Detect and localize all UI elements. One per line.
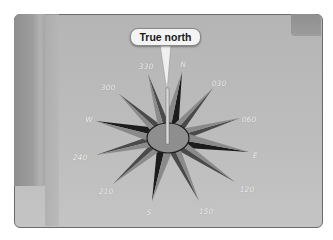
bearing-label-330: 330 xyxy=(139,62,153,71)
bearing-label-s: S xyxy=(147,208,152,217)
true-north-callout: True north xyxy=(130,28,201,46)
bearing-label-w: W xyxy=(85,115,92,124)
bearing-label-n: N xyxy=(180,60,186,69)
bearing-label-030: 030 xyxy=(212,79,226,88)
bearing-label-300: 300 xyxy=(101,83,115,92)
callout-pointer xyxy=(160,44,171,92)
bearing-label-e: E xyxy=(253,151,258,160)
bearing-label-240: 240 xyxy=(73,153,87,162)
bearing-label-120: 120 xyxy=(240,185,254,194)
bearing-label-150: 150 xyxy=(199,207,213,216)
bearing-label-210: 210 xyxy=(99,187,113,196)
true-north-needle xyxy=(166,88,169,144)
bearing-label-060: 060 xyxy=(242,115,256,124)
